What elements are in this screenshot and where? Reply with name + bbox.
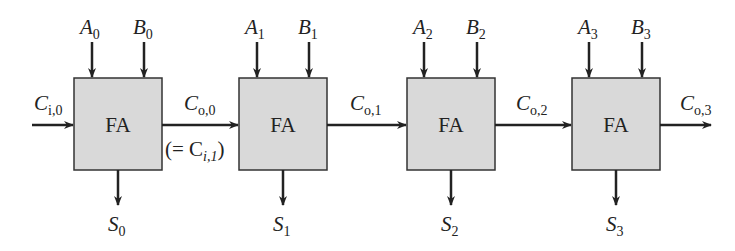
block-label: FA (270, 113, 296, 137)
block-label: FA (438, 113, 464, 137)
a-label: A3 (576, 15, 598, 42)
ripple-carry-adder-diagram: Ci,0 FA A0 B0 S0 Co,0 (= Ci,1) FA A1 B1 … (0, 0, 735, 251)
sum-label: S3 (606, 212, 624, 239)
carry-out-label-1: Co,1 (350, 91, 382, 118)
full-adder-1: FA A1 B1 S1 (239, 15, 327, 239)
a-label: A0 (78, 15, 100, 42)
a-label: A1 (243, 15, 265, 42)
b-label: B2 (466, 15, 486, 42)
a-label: A2 (411, 15, 433, 42)
full-adder-2: FA A2 B2 S2 (407, 15, 495, 239)
sum-label: S2 (441, 212, 459, 239)
carry-out-label-0: Co,0 (184, 91, 216, 118)
b-label: B3 (631, 15, 651, 42)
b-label: B1 (298, 15, 318, 42)
equivalence-note: (= Ci,1) (165, 137, 224, 164)
carry-out-label-3: Co,3 (680, 91, 712, 118)
b-label: B0 (133, 15, 153, 42)
full-adder-0: FA A0 B0 S0 (74, 15, 162, 239)
carry-out-label-2: Co,2 (516, 91, 548, 118)
block-label: FA (105, 113, 131, 137)
block-label: FA (603, 113, 629, 137)
full-adder-3: FA A3 B3 S3 (572, 15, 660, 239)
sum-label: S0 (108, 212, 126, 239)
sum-label: S1 (273, 212, 291, 239)
carry-in-label: Ci,0 (34, 91, 62, 118)
